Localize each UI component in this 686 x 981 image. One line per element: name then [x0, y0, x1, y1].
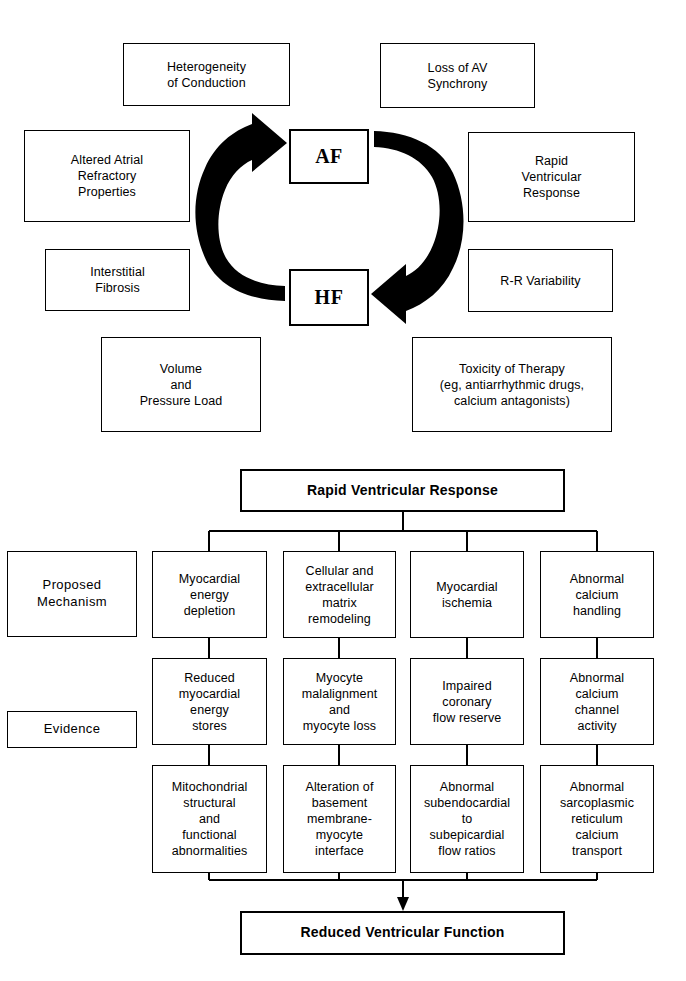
- figure-canvas: AF HF Heterogeneity of Conduction Altere…: [0, 0, 686, 981]
- evidence2-box-1: Mitochondrial structural and functional …: [152, 765, 267, 873]
- row-label-proposed-mechanism: Proposed Mechanism: [7, 551, 137, 637]
- node-af: AF: [289, 129, 369, 184]
- mechanism-box-2: Cellular and extracellular matrix remode…: [283, 551, 396, 638]
- mechanism-box-3: Myocardial ischemia: [410, 551, 524, 638]
- tree-header-rapid-ventricular-response: Rapid Ventricular Response: [240, 469, 565, 512]
- evidence1-box-3: Impaired coronary flow reserve: [410, 658, 524, 745]
- box-heterogeneity-of-conduction: Heterogeneity of Conduction: [123, 43, 290, 106]
- box-loss-of-av-synchrony: Loss of AV Synchrony: [380, 43, 535, 108]
- af-to-hf-arrow: [371, 131, 464, 324]
- box-altered-atrial-refractory-properties: Altered Atrial Refractory Properties: [24, 130, 190, 222]
- evidence2-box-4: Abnormal sarcoplasmic reticulum calcium …: [540, 765, 654, 873]
- tree-footer-reduced-ventricular-function: Reduced Ventricular Function: [240, 911, 565, 955]
- box-rapid-ventricular-response-top: Rapid Ventricular Response: [468, 132, 635, 222]
- box-toxicity-of-therapy: Toxicity of Therapy (eg, antiarrhythmic …: [412, 337, 612, 432]
- hf-to-af-arrow: [195, 113, 287, 301]
- evidence2-box-3: Abnormal subendocardial to subepicardial…: [410, 765, 524, 873]
- footer-arrowhead: [397, 897, 409, 911]
- evidence1-box-2: Myocyte malalignment and myocyte loss: [283, 658, 396, 745]
- evidence1-box-1: Reduced myocardial energy stores: [152, 658, 267, 745]
- evidence2-box-2: Alteration of basement membrane- myocyte…: [283, 765, 396, 873]
- mechanism-box-1: Myocardial energy depletion: [152, 551, 267, 638]
- box-volume-and-pressure-load: Volume and Pressure Load: [101, 337, 261, 432]
- mechanism-box-4: Abnormal calcium handling: [540, 551, 654, 638]
- box-rr-variability: R-R Variability: [468, 249, 613, 312]
- box-interstitial-fibrosis: Interstitial Fibrosis: [45, 249, 190, 311]
- row-label-evidence: Evidence: [7, 711, 137, 748]
- evidence1-box-4: Abnormal calcium channel activity: [540, 658, 654, 745]
- node-hf: HF: [289, 269, 369, 326]
